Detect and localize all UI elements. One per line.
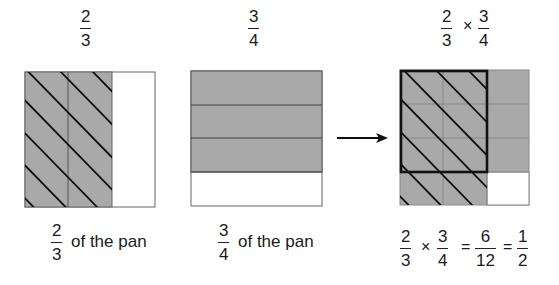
numerator: 3	[218, 222, 229, 239]
denominator: 3	[400, 252, 411, 269]
caption-fraction-1: 2 3	[51, 222, 62, 263]
equation-fraction-a: 2 3	[400, 228, 411, 269]
equation-fraction-c: 6 12	[475, 228, 496, 269]
caption-text-2: of the pan	[238, 232, 314, 252]
denominator: 4	[248, 32, 259, 49]
numerator: 3	[478, 8, 489, 25]
title-fraction-3b: 3 4	[478, 8, 489, 49]
fraction-bar	[218, 242, 229, 243]
equation-fraction-b: 3 4	[437, 228, 448, 269]
caption-text-1: of the pan	[71, 232, 147, 252]
pan-three-fourths	[191, 71, 322, 206]
fraction-bar	[437, 248, 448, 249]
denominator: 3	[51, 246, 62, 263]
numerator: 3	[248, 8, 259, 25]
numerator: 2	[400, 228, 411, 245]
denominator: 3	[441, 32, 452, 49]
numerator: 2	[441, 8, 452, 25]
denominator: 2	[517, 252, 528, 269]
denominator: 4	[478, 32, 489, 49]
equation-fraction-d: 1 2	[517, 228, 528, 269]
denominator: 3	[80, 32, 91, 49]
title-fraction-1: 2 3	[80, 8, 91, 49]
numerator: 3	[437, 228, 448, 245]
fraction-bar	[517, 248, 528, 249]
fraction-bar	[80, 28, 91, 29]
title-fraction-2: 3 4	[248, 8, 259, 49]
numerator: 2	[80, 8, 91, 25]
title-fraction-3a: 2 3	[441, 8, 452, 49]
denominator: 4	[218, 246, 229, 263]
multiply-sign: ×	[463, 17, 472, 35]
arrow-icon	[337, 133, 388, 143]
fraction-bar	[248, 28, 259, 29]
pan-product	[385, 26, 529, 232]
numerator: 1	[517, 228, 528, 245]
pan-two-thirds	[10, 28, 155, 234]
fraction-bar	[441, 28, 452, 29]
fraction-bar	[478, 28, 489, 29]
equals-sign: =	[503, 238, 512, 256]
numerator: 6	[480, 228, 491, 245]
fraction-bar	[51, 242, 62, 243]
numerator: 2	[51, 222, 62, 239]
equals-sign: =	[461, 238, 470, 256]
denominator: 12	[475, 252, 496, 269]
caption-fraction-2: 3 4	[218, 222, 229, 263]
denominator: 4	[437, 252, 448, 269]
fraction-bar	[475, 248, 496, 249]
fraction-bar	[400, 248, 411, 249]
multiply-sign: ×	[421, 238, 430, 256]
